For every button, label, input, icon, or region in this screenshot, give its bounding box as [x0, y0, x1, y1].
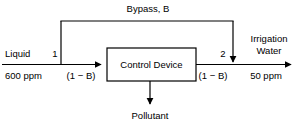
- inlet-stream-label: Liquid: [5, 48, 30, 59]
- node-1-label: 1: [52, 48, 57, 59]
- node-2-label: 2: [220, 48, 225, 59]
- inlet-fraction-prefix: (1 −: [67, 70, 86, 81]
- bypass-label-text: Bypass,: [127, 3, 163, 14]
- outlet-stream-label-line2: Water: [251, 45, 288, 57]
- outlet-stream-label: Irrigation Water: [251, 33, 288, 56]
- inlet-concentration-label: 600 ppm: [5, 70, 42, 81]
- outlet-concentration-label: 50 ppm: [250, 70, 282, 81]
- outlet-fraction-prefix: (1 −: [199, 70, 218, 81]
- bypass-label: Bypass, B: [127, 3, 170, 14]
- outlet-fraction-label: (1 − B): [199, 70, 228, 81]
- pollutant-label: Pollutant: [132, 110, 169, 121]
- bypass-flow-diagram: Bypass, B Liquid 1 600 ppm (1 − B) Contr…: [0, 0, 298, 131]
- bypass-label-symbol: B: [163, 3, 169, 14]
- outlet-stream-label-line1: Irrigation: [251, 33, 288, 45]
- inlet-fraction-suffix: ): [92, 70, 95, 81]
- outlet-fraction-suffix: ): [224, 70, 227, 81]
- control-device-label: Control Device: [107, 48, 196, 81]
- inlet-fraction-label: (1 − B): [67, 70, 96, 81]
